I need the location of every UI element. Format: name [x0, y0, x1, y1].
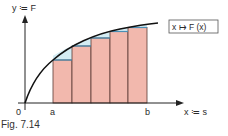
- rectangle-2: [72, 46, 91, 103]
- rectangle-4: [110, 32, 128, 104]
- riemann-rectangles: [53, 28, 147, 104]
- rectangle-5: [128, 28, 147, 104]
- x-axis-arrow-icon: [176, 100, 184, 106]
- a-label: a: [50, 107, 55, 117]
- function-label: x ↦ F (x): [172, 22, 207, 32]
- origin-label: 0: [16, 107, 21, 117]
- rectangle-1: [53, 60, 72, 103]
- function-label-box: x ↦ F (x): [169, 20, 218, 33]
- x-axis-label: x ≔ s: [184, 107, 208, 117]
- rectangle-3: [91, 38, 110, 103]
- b-label: b: [145, 107, 150, 117]
- figure-caption: Fig. 7.14: [1, 119, 40, 130]
- riemann-sum-figure: y ≔ F x ≔ s 0 a b x ↦ F (x): [0, 0, 228, 136]
- y-axis-label: y ≔ F: [12, 3, 37, 13]
- y-axis-arrow-icon: [22, 15, 28, 23]
